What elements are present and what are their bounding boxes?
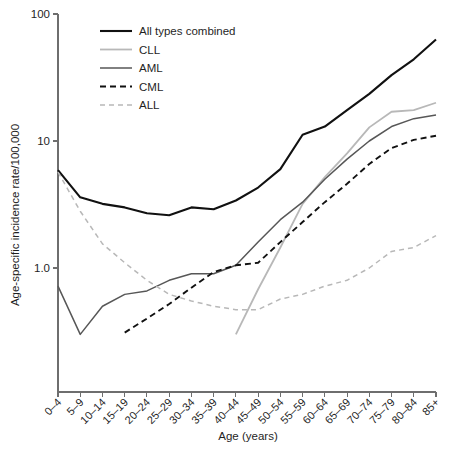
incidence-rate-line-chart: 100101.0 0–45–910–1415–1920–2425–2930–34… — [0, 0, 457, 450]
legend-label: AML — [139, 62, 163, 74]
y-tick-label: 10 — [37, 135, 50, 147]
x-axis-title: Age (years) — [218, 430, 278, 442]
legend-item-aml: AML — [100, 62, 163, 74]
x-tick-label: 80–84 — [389, 396, 419, 426]
y-tick-label: 100 — [31, 8, 50, 20]
x-tick-label: 0–4 — [42, 396, 63, 417]
legend-item-all: ALL — [100, 99, 160, 111]
legend-item-cml: CML — [100, 81, 164, 93]
series-line-cml — [125, 136, 436, 333]
series-line-aml — [58, 115, 436, 334]
legend-label: All types combined — [139, 25, 236, 37]
series-line-cll — [236, 103, 436, 335]
x-tick-label: 85+ — [420, 396, 442, 418]
y-axis: 100101.0 — [31, 8, 58, 392]
series-line-all-types-combined — [58, 39, 436, 215]
chart-legend: All types combinedCLLAMLCMLALL — [100, 25, 236, 111]
legend-item-all-types-combined: All types combined — [100, 25, 236, 37]
legend-item-cll: CLL — [100, 44, 161, 56]
legend-label: CML — [139, 81, 164, 93]
series-line-all — [58, 172, 436, 310]
y-axis-title: Age-specific incidence rate/100,000 — [9, 124, 21, 306]
legend-label: CLL — [139, 44, 161, 56]
chart-figure: 100101.0 0–45–910–1415–1920–2425–2930–34… — [0, 0, 457, 450]
x-axis: 0–45–910–1415–1920–2425–2930–3435–3940–4… — [42, 392, 441, 426]
legend-label: ALL — [139, 99, 160, 111]
y-tick-label: 1.0 — [34, 262, 50, 274]
series-layer — [58, 39, 436, 334]
